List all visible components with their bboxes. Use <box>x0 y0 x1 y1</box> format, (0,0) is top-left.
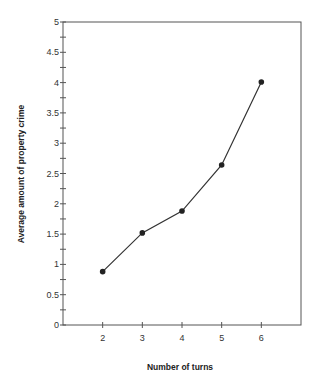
y-tick-label: 1.5 <box>46 229 59 239</box>
x-tick-label: 4 <box>179 333 184 343</box>
data-point-marker <box>100 269 106 275</box>
data-series <box>100 79 264 274</box>
data-point-marker <box>140 230 146 236</box>
y-axis-title: Average amount of property crime <box>16 104 26 243</box>
y-tick-label: 0 <box>54 320 59 330</box>
y-tick-label: 3.5 <box>46 108 59 118</box>
x-axis-title: Number of turns <box>147 362 213 372</box>
data-point-marker <box>219 162 225 168</box>
plot-frame <box>63 22 301 325</box>
y-tick-label: 2.5 <box>46 169 59 179</box>
x-tick-label: 2 <box>100 333 105 343</box>
x-tick-label: 5 <box>219 333 224 343</box>
data-point-marker <box>179 208 185 214</box>
y-tick-label: 0.5 <box>46 290 59 300</box>
y-tick-label: 1 <box>54 259 59 269</box>
y-tick-label: 2 <box>54 199 59 209</box>
y-tick-label: 4.5 <box>46 47 59 57</box>
y-tick-label: 5 <box>54 17 59 27</box>
y-tick-label: 3 <box>54 138 59 148</box>
y-tick-label: 4 <box>54 78 59 88</box>
x-tick-label: 3 <box>140 333 145 343</box>
data-point-marker <box>259 79 265 85</box>
x-tick-label: 6 <box>259 333 264 343</box>
plot-border <box>63 22 301 325</box>
line-chart: 00.511.522.533.544.55 23456 Number of tu… <box>0 0 314 383</box>
series-line <box>103 82 262 272</box>
